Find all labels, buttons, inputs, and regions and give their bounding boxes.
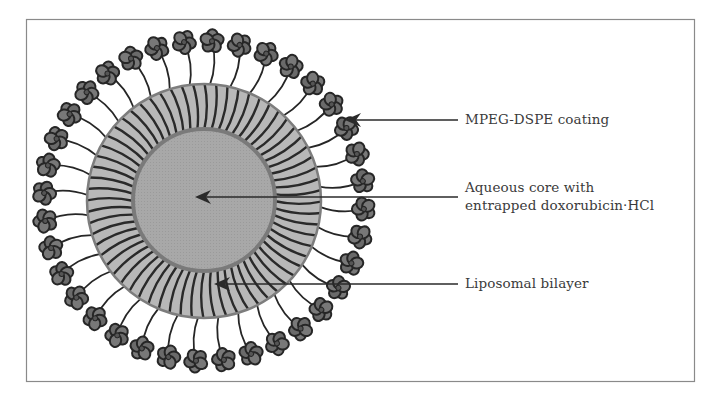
peg-molecule [221,27,257,88]
label-coating: MPEG-DSPE coating [465,111,609,128]
peg-molecule [207,316,240,376]
liposome-diagram: MPEG-DSPE coating Aqueous core with entr… [0,0,720,402]
coating-arrow [345,113,458,127]
peg-molecule [311,246,368,279]
peg-molecule [198,29,225,85]
peg-molecule [151,314,186,374]
peg-molecule [181,317,211,375]
peg-molecule [31,148,91,183]
peg-molecule [124,308,160,366]
peg-molecule [317,220,376,254]
peg-molecule [234,312,270,371]
peg-molecule [319,163,380,199]
label-core-line1: Aqueous core with [465,179,594,196]
peg-molecule [32,207,89,235]
peg-molecule [27,175,88,211]
peg-molecule [167,26,202,86]
peg-molecule [139,31,175,91]
peg-molecule [248,36,284,94]
label-core-line2: entrapped doxorubicin·HCl [465,197,654,214]
peg-molecule [46,254,101,291]
label-bilayer: Liposomal bilayer [465,275,589,292]
peg-molecule [41,124,97,156]
